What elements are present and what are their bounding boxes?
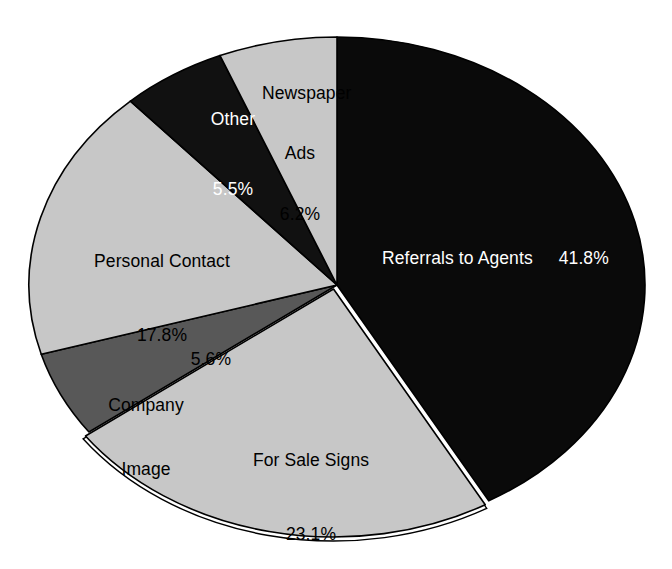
slice-label-for-sale-signs: For Sale Signs 23.1% [231, 411, 391, 569]
pie-chart: Referrals to Agents41.8% For Sale Signs … [0, 0, 672, 569]
slice-name-company-image-line1: Company [86, 395, 206, 416]
slice-name-company-image-line2: Image [86, 459, 206, 480]
slice-label-newspaper-ads: Newspaper Ads 6.2% [262, 44, 338, 264]
slice-name-personal-contact: Personal Contact [82, 251, 242, 272]
slice-name-newspaper-ads-line2: Ads [262, 143, 338, 164]
slice-name-newspaper-ads-line1: Newspaper [262, 83, 338, 104]
slice-name-for-sale-signs: For Sale Signs [231, 450, 391, 471]
slice-value-personal-contact: 17.8% [82, 325, 242, 346]
slice-value-newspaper-ads: 6.2% [262, 204, 338, 225]
slice-value-referrals-to-agents: 41.8% [559, 248, 609, 268]
slice-name-referrals-to-agents: Referrals to Agents [382, 248, 533, 268]
slice-value-for-sale-signs: 23.1% [231, 524, 391, 545]
slice-label-referrals-to-agents: Referrals to Agents41.8% [382, 248, 609, 269]
